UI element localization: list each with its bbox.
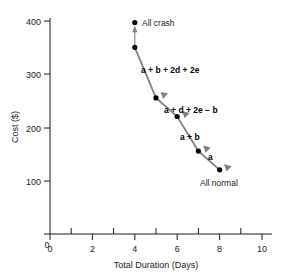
data-point-8-120	[217, 167, 222, 172]
data-point-7-155	[196, 149, 201, 154]
segment-annotation-3: a + b	[180, 132, 200, 142]
cost-duration-chart: 400 300 200 100 0 Cost ($) 0 2 4 6 8 10 …	[0, 0, 291, 280]
data-point-4-350	[132, 45, 137, 50]
x-tick-label-6: 6	[175, 244, 180, 254]
segment-annotation-4: a	[208, 152, 213, 162]
segment-arrowhead-5-icon	[161, 92, 168, 99]
y-tick-label-200: 200	[26, 124, 41, 134]
all-crash-arrowhead-icon	[132, 26, 137, 33]
x-tick-label-8: 8	[217, 244, 222, 254]
x-tick-label-2: 2	[90, 244, 95, 254]
x-tick-label-0: 0	[47, 244, 52, 254]
segment-arrowhead-8-icon	[224, 164, 232, 171]
chart-canvas: 400 300 200 100 0 Cost ($) 0 2 4 6 8 10 …	[0, 0, 291, 280]
x-tick-label-10: 10	[257, 244, 267, 254]
x-axis-title: Total Duration (Days)	[114, 260, 199, 270]
segment-annotation-1: a + b + 2d + 2e	[141, 65, 200, 75]
y-tick-label-100: 100	[26, 177, 41, 187]
y-tick-label-400: 400	[26, 17, 41, 27]
y-tick-label-300: 300	[26, 70, 41, 80]
all-normal-label: All normal	[200, 178, 238, 188]
data-point-all-crash-upper	[132, 20, 137, 25]
y-axis-title: Cost ($)	[10, 111, 20, 143]
segment-annotation-2: a + d + 2e − b	[164, 105, 218, 115]
data-point-5-255	[153, 95, 158, 100]
x-tick-label-4: 4	[132, 244, 137, 254]
all-crash-label: All crash	[142, 18, 175, 28]
